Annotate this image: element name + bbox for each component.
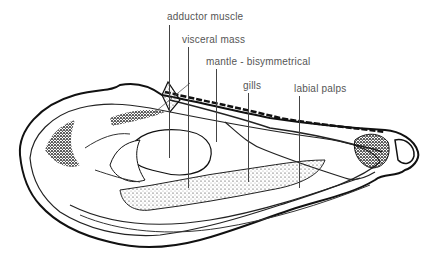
- label-gills: gills: [243, 80, 261, 91]
- label-mantle: mantle - bisymmetrical: [206, 56, 310, 67]
- oyster-diagram: adductor muscle visceral mass mantle - b…: [0, 0, 426, 265]
- gills-leader-line: [248, 93, 249, 182]
- label-adductor-muscle: adductor muscle: [167, 11, 243, 22]
- label-visceral-mass: visceral mass: [182, 34, 245, 45]
- labial-palps-leader-line: [299, 96, 300, 188]
- adductor-muscle-leader-line: [169, 25, 170, 158]
- visceral-mass-leader-line: [188, 47, 189, 188]
- label-labial-palps: labial palps: [294, 83, 346, 94]
- mantle-leader-line: [216, 69, 217, 142]
